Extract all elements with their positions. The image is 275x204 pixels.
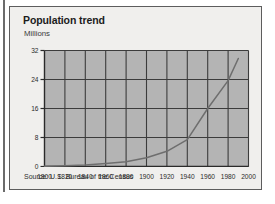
line-chart-svg [35, 44, 250, 167]
x-tick-label-1940: 1940 [176, 173, 198, 180]
x-tick-label-1980: 1980 [217, 173, 239, 180]
y-axis-units-label: Millions [24, 29, 50, 38]
y-tick-label-0: 0 [10, 163, 39, 170]
x-tick-label-1900: 1900 [136, 173, 158, 180]
y-tick-label-32: 32 [10, 47, 39, 54]
source-note: Source: U.S. Bureau of the Census [24, 173, 133, 180]
y-tick-label-8: 8 [10, 134, 39, 141]
y-tick-label-24: 24 [10, 76, 39, 83]
chart-card: Population trend Millions 32241680 [9, 6, 262, 190]
plot-area [35, 44, 250, 167]
x-tick-label-1920: 1920 [156, 173, 178, 180]
page-left-rule [3, 0, 5, 192]
x-tick-label-2000: 2000 [238, 173, 260, 180]
page-title: Population trend [23, 14, 105, 26]
x-tick-label-1960: 1960 [197, 173, 219, 180]
figure-root: Population trend Millions 32241680 [0, 0, 275, 204]
y-tick-label-16: 16 [10, 105, 39, 112]
